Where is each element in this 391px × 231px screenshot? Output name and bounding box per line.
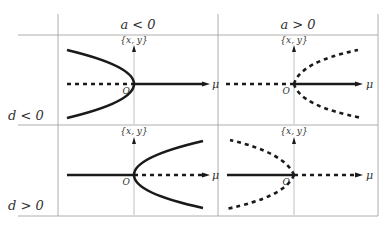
vertical-axis-label: {x, y} [120,126,147,136]
vertical-axis-label: {x, y} [120,35,147,45]
row-label-d-positive: d > 0 [8,198,44,213]
origin-label: O [283,86,291,96]
vertical-axis-arrow-icon [132,137,136,144]
panel-a-pos-d-pos: {x, y} μ O [226,126,373,215]
panel-a-neg-d-pos: {x, y} μ O [67,126,219,215]
horizontal-axis-arrow-icon [202,82,210,87]
bifurcation-table: a < 0 a > 0 d < 0 d > 0 {x, y} μ O {x, y… [0,0,391,231]
vertical-axis-arrow-icon [132,45,136,52]
horizontal-axis-arrow-icon [355,173,363,178]
horizontal-axis-label: μ [366,78,373,91]
vertical-axis-arrow-icon [292,137,296,144]
panel-a-pos-d-neg: {x, y} μ O [226,35,373,124]
unstable-bifurcating-branch-lower [294,84,362,118]
panel-a-neg-d-neg: {x, y} μ O [67,35,219,124]
column-header-a-negative: a < 0 [120,17,155,32]
horizontal-axis-arrow-icon [355,82,363,87]
horizontal-axis-label: μ [212,78,219,91]
horizontal-axis-arrow-icon [202,173,210,178]
horizontal-axis-label: μ [366,169,373,182]
row-label-d-negative: d < 0 [8,108,44,123]
column-header-a-positive: a > 0 [280,17,315,32]
vertical-axis-label: {x, y} [280,126,307,136]
origin-label: O [123,177,131,187]
horizontal-axis-label: μ [212,169,219,182]
unstable-bifurcating-branch-upper [294,50,358,84]
bifurcation-diagram: a < 0 a > 0 d < 0 d > 0 {x, y} μ O {x, y… [0,0,391,231]
vertical-axis-arrow-icon [292,45,296,52]
unstable-bifurcating-branch-upper [230,140,294,175]
vertical-axis-label: {x, y} [280,35,307,45]
